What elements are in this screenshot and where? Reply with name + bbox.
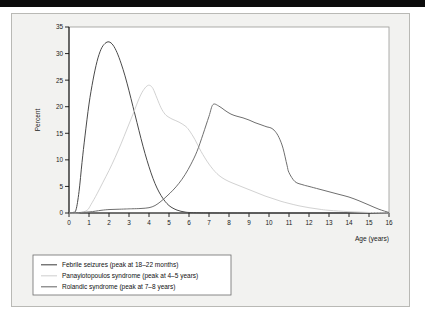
plot-wrapper: 05101520253035 012345678910111213141516 … — [0, 0, 425, 319]
y-axis-ticks: 05101520253035 — [56, 23, 69, 216]
x-tick-label: 6 — [187, 219, 191, 226]
x-tick-label: 15 — [365, 219, 373, 226]
line-chart: 05101520253035 012345678910111213141516 … — [11, 13, 410, 307]
y-tick-label: 15 — [56, 130, 64, 137]
legend-item-label: Febrile seizures (peak at 18–22 months) — [62, 261, 178, 269]
y-tick-label: 35 — [56, 23, 64, 30]
y-tick-label: 5 — [59, 183, 63, 190]
chart-legend: Febrile seizures (peak at 18–22 months)P… — [33, 255, 231, 295]
legend-items: Febrile seizures (peak at 18–22 months)P… — [41, 261, 198, 291]
x-tick-label: 5 — [167, 219, 171, 226]
x-tick-label: 2 — [107, 219, 111, 226]
x-tick-label: 16 — [385, 219, 393, 226]
figure-container: 05101520253035 012345678910111213141516 … — [0, 0, 425, 319]
y-tick-label: 10 — [56, 156, 64, 163]
y-tick-label: 30 — [56, 50, 64, 57]
legend-item-label: Rolandic syndrome (peak at 7–8 years) — [62, 283, 175, 291]
plot-area — [69, 27, 389, 213]
legend-item-label: Panayiotopoulos syndrome (peak at 4–5 ye… — [62, 272, 198, 280]
x-tick-label: 13 — [325, 219, 333, 226]
x-tick-label: 14 — [345, 219, 353, 226]
x-tick-label: 0 — [67, 219, 71, 226]
y-tick-label: 20 — [56, 103, 64, 110]
x-tick-label: 8 — [227, 219, 231, 226]
x-tick-label: 4 — [147, 219, 151, 226]
y-tick-label: 0 — [59, 209, 63, 216]
x-tick-label: 7 — [207, 219, 211, 226]
x-tick-label: 3 — [127, 219, 131, 226]
x-tick-label: 12 — [305, 219, 313, 226]
y-axis-title: Percent — [34, 108, 41, 131]
x-tick-label: 9 — [247, 219, 251, 226]
x-axis-ticks: 012345678910111213141516 — [67, 213, 393, 226]
x-tick-label: 1 — [87, 219, 91, 226]
y-tick-label: 25 — [56, 77, 64, 84]
x-tick-label: 11 — [286, 219, 293, 226]
x-tick-label: 10 — [265, 219, 273, 226]
x-axis-title: Age (years) — [355, 235, 389, 243]
